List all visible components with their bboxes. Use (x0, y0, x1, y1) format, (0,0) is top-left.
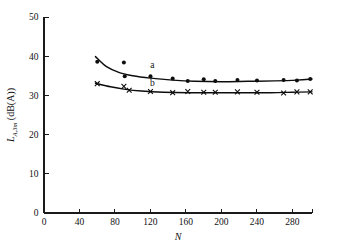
x-tick-label-160: 160 (179, 217, 194, 227)
data-point (122, 60, 126, 64)
data-point (121, 84, 126, 89)
y-axis-title: LA,3m (dB(A)) (5, 88, 18, 143)
axis-tick-labels: 0102030405004080120160200240280 (29, 12, 300, 227)
y-tick-label-50: 50 (29, 12, 39, 22)
series-a-points (95, 60, 312, 83)
x-tick-label-200: 200 (214, 217, 229, 227)
y-tick-label-40: 40 (29, 52, 39, 62)
series-inline-labels: ab (150, 60, 155, 88)
data-point (171, 77, 175, 81)
data-point (202, 77, 206, 81)
y-axis-title-text: LA,3m (dB(A)) (5, 88, 18, 143)
x-tick-label-280: 280 (285, 217, 300, 227)
x-tick-label-80: 80 (110, 217, 120, 227)
data-point (123, 74, 127, 78)
series-label-a: a (150, 60, 155, 70)
chart-canvas: 0102030405004080120160200240280 ab NLA,3… (0, 0, 346, 249)
data-point (95, 60, 99, 64)
series-curves (95, 57, 312, 93)
data-point (213, 79, 217, 83)
y-tick-label-20: 20 (29, 130, 39, 140)
x-axis-title: N (174, 231, 183, 242)
data-point (235, 89, 240, 94)
data-point (235, 78, 239, 82)
series-label-b: b (150, 78, 155, 88)
x-tick-label-120: 120 (143, 217, 158, 227)
axes (44, 17, 312, 213)
data-point (282, 78, 286, 82)
data-point (186, 79, 190, 83)
x-tick-label-0: 0 (42, 217, 47, 227)
y-tick-label-10: 10 (29, 169, 39, 179)
axis-ticks (44, 17, 312, 213)
data-point (295, 79, 299, 83)
data-point (255, 79, 259, 83)
y-tick-label-0: 0 (34, 208, 39, 218)
y-tick-label-30: 30 (29, 91, 39, 101)
chart-figure: 0102030405004080120160200240280 ab NLA,3… (0, 0, 346, 249)
x-tick-label-240: 240 (250, 217, 265, 227)
data-point (308, 77, 312, 81)
x-tick-label-40: 40 (75, 217, 85, 227)
